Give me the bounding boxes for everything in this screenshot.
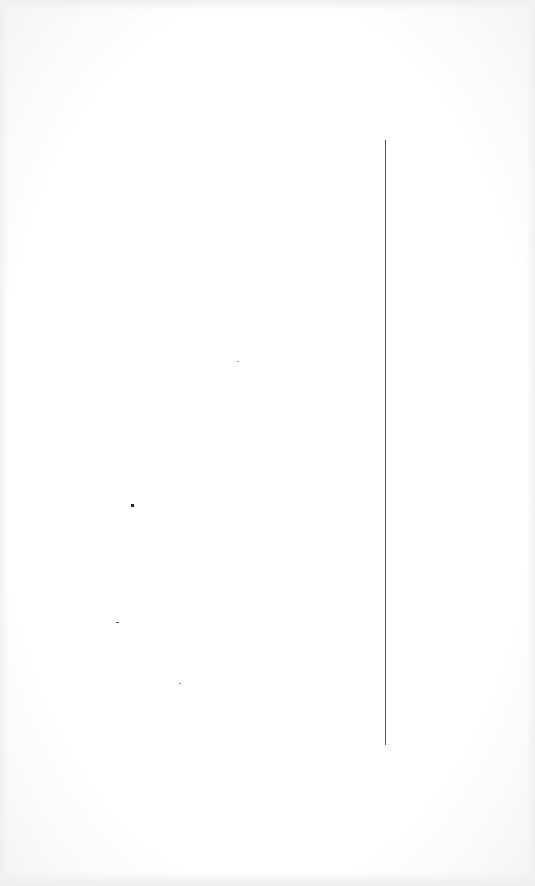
scan-speck [131,504,134,507]
scan-edge-right [527,0,535,886]
scan-speck [179,683,181,684]
vertical-rule-line [385,140,386,745]
scan-edge-bottom [0,872,535,886]
scan-edge-left [0,0,8,886]
scan-speck [237,361,239,362]
scan-speck [116,622,119,623]
scanned-page [0,0,535,886]
scan-edge-top [0,0,535,10]
